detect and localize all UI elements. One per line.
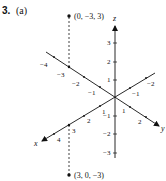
point-0-neg3-3: (0, −3, 3) [67, 12, 104, 67]
y-tick-neg2: −2 [72, 80, 80, 88]
x-tick-4: 4 [57, 136, 61, 144]
z-tick-1: 1 [107, 76, 111, 84]
y-tick-neg1: −1 [88, 89, 96, 97]
3d-axes-diagram: 3. (a) z 3 2 1 −1 −2 −3 y −4 −3 −2 −1 1 … [0, 0, 166, 181]
problem-part: (a) [16, 5, 27, 17]
x-tick-1: 1 [102, 108, 106, 116]
x-tick-3: 3 [72, 127, 76, 135]
x-tick-neg2: −2 [147, 80, 155, 88]
z-axis: z 3 2 1 −1 −2 −3 [103, 14, 117, 158]
z-tick-neg2: −2 [103, 130, 111, 138]
z-axis-label: z [112, 14, 117, 23]
y-tick-1: 1 [122, 107, 126, 115]
y-tick-neg4: −4 [40, 61, 48, 69]
y-tick-2: 2 [138, 118, 142, 126]
x-axis: x −1 −2 1 2 3 4 [33, 73, 155, 148]
y-axis: y −4 −3 −2 −1 1 2 [40, 52, 165, 133]
x-axis-label: x [33, 139, 38, 148]
y-axis-label: y [160, 124, 165, 133]
x-tick-neg1: −1 [132, 90, 140, 98]
z-tick-3: 3 [107, 39, 111, 47]
x-tick-2: 2 [87, 117, 91, 125]
z-tick-2: 2 [107, 58, 111, 66]
point-label-top: (0, −3, 3) [74, 12, 104, 21]
y-tick-neg3: −3 [57, 71, 65, 79]
z-tick-neg3: −3 [103, 149, 111, 157]
problem-number: 3. [2, 5, 11, 16]
point-label-bottom: (3, 0, −3) [74, 171, 104, 180]
